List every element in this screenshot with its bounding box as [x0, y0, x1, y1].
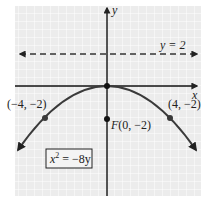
- point-4-neg2: [167, 115, 173, 121]
- point-4-neg2-label: (4, −2): [168, 97, 201, 111]
- vertex-point: [104, 83, 110, 89]
- y-axis-label: y: [111, 3, 118, 17]
- equation-label: x2 = −8y: [49, 151, 91, 166]
- directrix-label: y = 2: [159, 38, 185, 52]
- focus-point: [104, 116, 110, 122]
- focus-label: F(0, −2): [110, 118, 151, 132]
- point-neg4-neg2: [42, 115, 48, 121]
- parabola-diagram: y = 2 x y (−4, −2) (4, −2) F(0, −2) x2 =…: [0, 0, 215, 210]
- focus-coords: (0, −2): [118, 118, 151, 132]
- point-neg4-neg2-label: (−4, −2): [7, 97, 47, 111]
